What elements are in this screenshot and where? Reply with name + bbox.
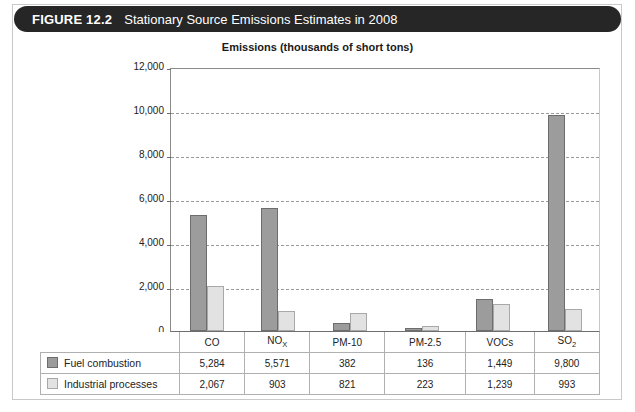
- table-cell-value: 993: [534, 374, 599, 395]
- bar: [333, 323, 350, 331]
- table-column-header: CO: [180, 332, 245, 353]
- bar: [565, 309, 582, 331]
- table-cell-value: 1,239: [466, 374, 535, 395]
- bar: [278, 311, 295, 331]
- y-axis-tick-labels: 02,0004,0006,0008,00010,00012,000: [104, 68, 164, 332]
- bar: [493, 304, 510, 331]
- bar: [548, 115, 565, 331]
- legend-fuel-combustion: Fuel combustion: [41, 353, 180, 374]
- plot-area: [170, 68, 600, 332]
- bar: [207, 286, 224, 331]
- table-column-header: PM-2.5: [385, 332, 466, 353]
- table-corner-cell: [41, 332, 180, 353]
- table-column-header: VOCs: [466, 332, 535, 353]
- table-cell-value: 5,284: [180, 353, 245, 374]
- category-label: PM-10: [333, 337, 362, 348]
- y-axis-tick-label: 6,000: [104, 193, 164, 204]
- category-label-subscript: 2: [572, 340, 576, 349]
- category-label: VOCs: [487, 337, 514, 348]
- bar-group: [458, 69, 530, 331]
- bar: [476, 299, 493, 331]
- y-axis-tick-label: 10,000: [104, 105, 164, 116]
- category-label: CO: [205, 337, 220, 348]
- table-cell-value: 903: [245, 374, 310, 395]
- legend-swatch-icon: [47, 357, 58, 368]
- category-label-subscript: X: [282, 340, 287, 349]
- bar-group: [386, 69, 458, 331]
- table-row: Industrial processes 2,0679038212231,239…: [41, 374, 600, 395]
- legend-swatch-icon: [47, 378, 58, 389]
- table-cell-value: 5,571: [245, 353, 310, 374]
- table-cell-value: 136: [385, 353, 466, 374]
- bar-group: [243, 69, 315, 331]
- table-cell-value: 821: [310, 374, 385, 395]
- table-cell-value: 223: [385, 374, 466, 395]
- y-axis-tick-label: 4,000: [104, 237, 164, 248]
- y-axis-tick-label: 12,000: [104, 61, 164, 72]
- table-cell-value: 2,067: [180, 374, 245, 395]
- bar-group: [171, 69, 243, 331]
- category-label: SO: [558, 335, 572, 346]
- bar: [405, 328, 422, 331]
- legend-label: Fuel combustion: [64, 357, 141, 369]
- y-axis-tick-label: 8,000: [104, 149, 164, 160]
- table-column-header: PM-10: [310, 332, 385, 353]
- bar: [261, 208, 278, 331]
- table-column-header: SO2: [534, 332, 599, 353]
- table-header-row: CONOXPM-10PM-2.5VOCsSO2: [41, 332, 600, 353]
- table-cell-value: 382: [310, 353, 385, 374]
- table-row: Fuel combustion 5,2845,5713821361,4499,8…: [41, 353, 600, 374]
- bar-group: [314, 69, 386, 331]
- bar: [422, 326, 439, 331]
- chart-data-table: CONOXPM-10PM-2.5VOCsSO2 Fuel combustion …: [40, 332, 600, 395]
- y-axis-tick-label: 2,000: [104, 281, 164, 292]
- category-label: NO: [267, 335, 282, 346]
- table-cell-value: 9,800: [534, 353, 599, 374]
- bar: [350, 313, 367, 331]
- legend-label: Industrial processes: [64, 378, 157, 390]
- category-label: PM-2.5: [409, 337, 441, 348]
- bar-group: [529, 69, 601, 331]
- legend-industrial-processes: Industrial processes: [41, 374, 180, 395]
- table-column-header: NOX: [245, 332, 310, 353]
- table-cell-value: 1,449: [466, 353, 535, 374]
- bar: [190, 215, 207, 331]
